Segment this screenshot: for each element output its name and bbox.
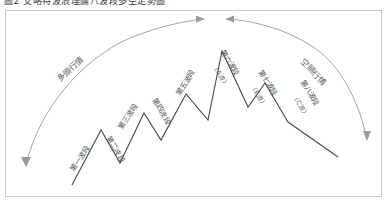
- phase-label-bull: 多頭行情: [55, 54, 86, 83]
- bear-arrow-head-down: [363, 131, 371, 141]
- segment-label-wave-4-text: 第四波段: [150, 97, 173, 127]
- segment-label-wave-2: 第二波段: [104, 135, 127, 165]
- segment-label-wave-5: 第五波段: [174, 67, 197, 97]
- bull-arrow-head-right: [196, 16, 205, 23]
- elliott-wave-diagram: 多頭行情 空頭行情 第一波段 第二波段 第三波段 第四波段 第五波段 第六波段 …: [0, 0, 390, 207]
- phase-label-bull-text: 多頭行情: [55, 54, 86, 83]
- segment-label-wave-7: 第七波段 （B波）: [248, 68, 279, 108]
- segment-label-wave-8: 第八波段 （C波）: [290, 78, 321, 118]
- segment-label-wave-3: 第三波段: [116, 101, 140, 131]
- segment-label-wave-3-text: 第三波段: [116, 101, 140, 131]
- segment-label-wave-1-text: 第一波段: [68, 143, 92, 173]
- segment-label-wave-4: 第四波段: [150, 97, 173, 127]
- segment-label-wave-1: 第一波段: [68, 143, 92, 173]
- segment-label-wave-2-text: 第二波段: [104, 135, 127, 165]
- bear-phase-arc: [226, 19, 366, 135]
- wave-polyline: [72, 51, 338, 185]
- segment-label-wave-5-text: 第五波段: [174, 67, 197, 97]
- elliott-wave-figure: 圖2 艾略特波浪理論八波段多空走勢圖 多頭行情 空頭行情 第一波段 第二波段 第…: [0, 0, 390, 207]
- bear-arrow-head-left: [225, 16, 234, 23]
- bull-arrow-head-left: [21, 157, 31, 167]
